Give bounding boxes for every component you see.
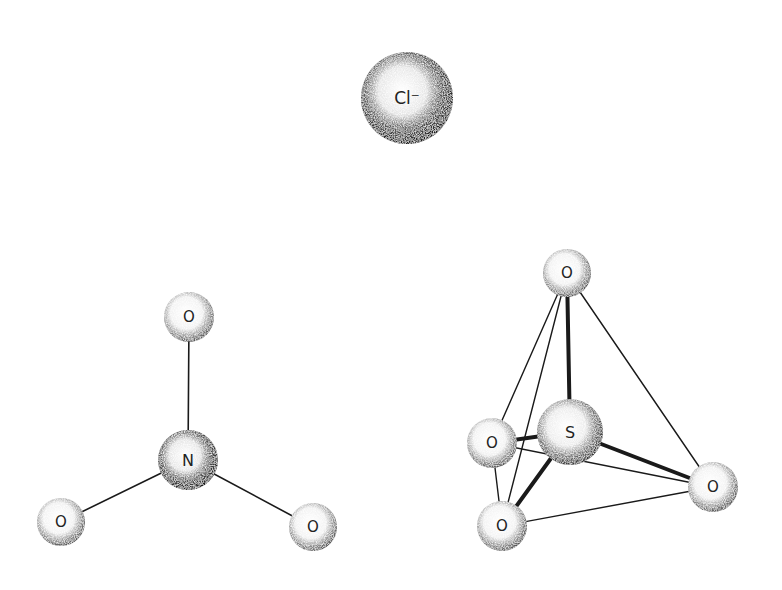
molecule-chloride: Cl⁻ bbox=[361, 52, 453, 144]
diagram-canvas: Cl⁻NOOOSOOOO bbox=[0, 0, 782, 590]
atom-sulfate-ot: O bbox=[543, 249, 591, 297]
edge-sulfate-ob-or bbox=[502, 487, 713, 526]
molecule-nitrate: NOOO bbox=[37, 292, 337, 551]
atom-label: O bbox=[307, 518, 319, 536]
atom-nitrate-o2: O bbox=[37, 498, 85, 546]
atom-label: O bbox=[486, 434, 498, 452]
edge-sulfate-ol-or bbox=[492, 443, 713, 487]
atom-sulfate-ob: O bbox=[477, 501, 527, 551]
bonds bbox=[61, 273, 713, 527]
atoms: Cl⁻NOOOSOOOO bbox=[37, 52, 738, 551]
atom-nitrate-o1: O bbox=[164, 292, 214, 342]
molecule-sulfate: SOOOO bbox=[467, 249, 738, 551]
atom-label: Cl⁻ bbox=[394, 88, 420, 108]
atom-label: O bbox=[561, 264, 573, 282]
molecule-diagram: Cl⁻NOOOSOOOO bbox=[0, 0, 782, 590]
atom-chloride-cl: Cl⁻ bbox=[361, 52, 453, 144]
atom-label: O bbox=[183, 308, 195, 326]
atom-nitrate-o3: O bbox=[289, 503, 337, 551]
atom-label: S bbox=[565, 423, 575, 442]
atom-label: O bbox=[55, 513, 67, 531]
atom-sulfate-ol: O bbox=[467, 418, 517, 468]
atom-sulfate-s: S bbox=[537, 399, 603, 465]
tetrahedron-edges bbox=[492, 273, 713, 526]
atom-sulfate-or: O bbox=[688, 462, 738, 512]
atom-label: N bbox=[182, 451, 194, 470]
atom-label: O bbox=[496, 517, 508, 535]
atom-label: O bbox=[707, 478, 719, 496]
atom-nitrate-n: N bbox=[158, 430, 218, 490]
